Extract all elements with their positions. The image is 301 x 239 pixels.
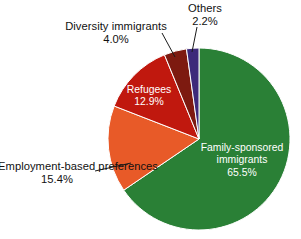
pie-label-refugees-value: 12.9% [118,96,180,108]
pie-label-others-value: 2.2% [176,15,234,28]
pie-label-diversity-immigrants-text: Diversity immigrants [65,20,167,32]
pie-label-employment-based-preferences-line2: preferences [98,160,158,172]
pie-label-diversity-immigrants: Diversity immigrants 4.0% [52,20,180,46]
pie-label-employment-based-preferences-value: 15.4% [0,173,116,186]
pie-label-diversity-immigrants-value: 4.0% [52,33,180,46]
pie-label-others-text: Others [188,2,222,14]
pie-label-family-sponsored-immigrants: Family-sponsored immigrants 65.5% [196,142,288,179]
pie-label-refugees: Refugees 12.9% [118,84,180,109]
pie-label-refugees-text: Refugees [127,84,171,95]
pie-label-family-sponsored-immigrants-line1: Family-sponsored [201,142,284,153]
pie-chart-figure: Others 2.2% Diversity immigrants 4.0% Em… [0,0,301,239]
pie-label-family-sponsored-immigrants-value: 65.5% [196,167,288,179]
pie-label-employment-based-preferences-line1: Employment-based [0,160,95,172]
pie-label-others: Others 2.2% [176,2,234,28]
pie-label-family-sponsored-immigrants-line2: immigrants [196,154,288,166]
pie-label-employment-based-preferences: Employment-based preferences 15.4% [0,160,116,186]
